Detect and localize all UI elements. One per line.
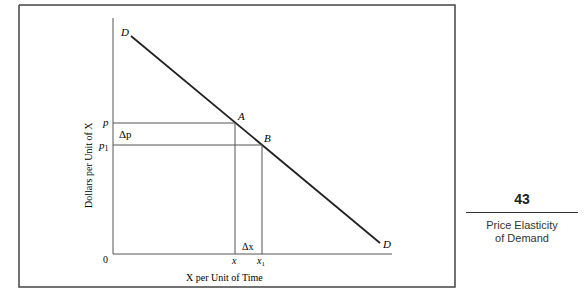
origin-label: 0 xyxy=(103,254,108,265)
page-number: 43 xyxy=(466,190,578,208)
sidebar-divider xyxy=(466,212,578,213)
section-title-line2: of Demand xyxy=(466,232,578,245)
demand-diagram: D D A B p p1 Δp 0 x x1 Δx X per Unit of … xyxy=(0,0,585,297)
qty1-label: x1 xyxy=(256,255,265,268)
delta-p-label: Δp xyxy=(119,128,132,140)
curve-label-end: D xyxy=(382,238,391,250)
price-label: p xyxy=(102,116,109,128)
delta-x-label: Δx xyxy=(242,241,253,252)
page-sidebar: 43 Price Elasticity of Demand xyxy=(466,190,578,245)
y-axis-title: Dollars per Unit of X xyxy=(83,122,94,208)
qty-label: x xyxy=(231,255,237,266)
curve-label-start: D xyxy=(120,26,129,38)
price1-label: p1 xyxy=(98,139,109,153)
point-b-label: B xyxy=(264,132,271,144)
x-axis-title: X per Unit of Time xyxy=(186,272,263,283)
section-title-line1: Price Elasticity xyxy=(466,219,578,232)
point-a-label: A xyxy=(237,110,245,122)
demand-curve xyxy=(131,36,380,243)
